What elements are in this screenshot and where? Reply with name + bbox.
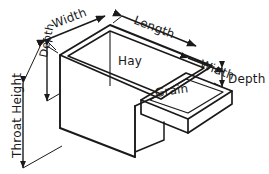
diagram-canvas: Width Length Width Depth Depth Throat He… xyxy=(0,0,269,174)
label-hay: Hay xyxy=(118,54,142,68)
label-throat-height: Throat Height xyxy=(10,73,24,158)
bunk-body-outline xyxy=(60,25,212,157)
length-extension-line xyxy=(113,16,122,23)
label-depth-right: Depth xyxy=(228,72,266,86)
throat-height-extension-lines xyxy=(23,38,62,168)
